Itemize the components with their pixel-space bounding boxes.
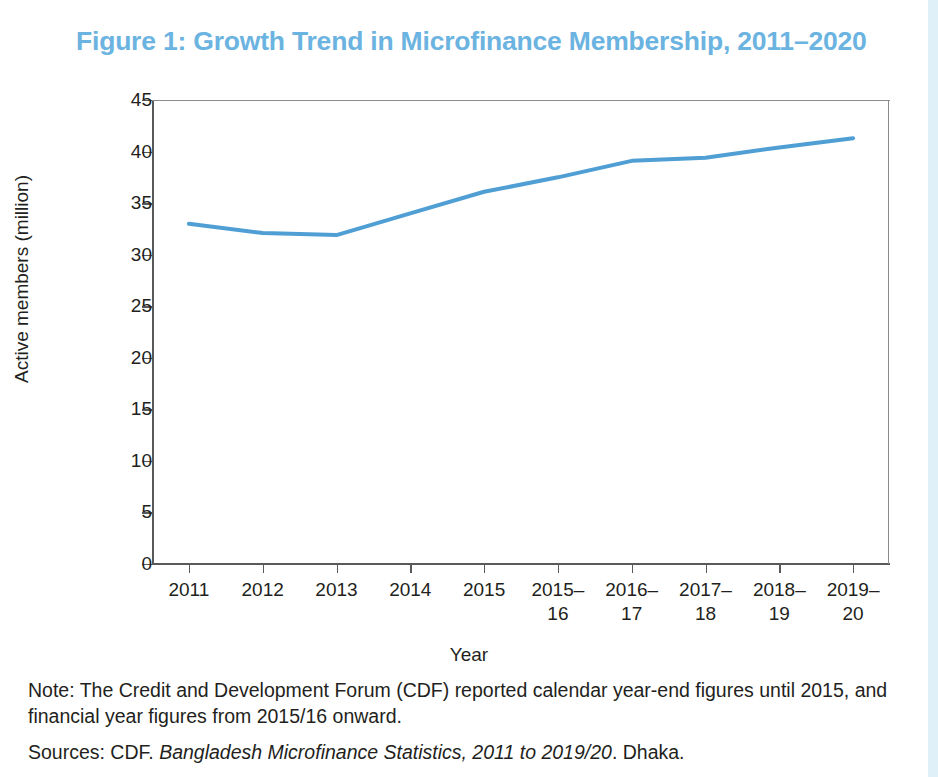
y-axis-label: 0 bbox=[92, 553, 152, 575]
x-axis-tick bbox=[484, 564, 485, 573]
y-axis-label: 5 bbox=[92, 501, 152, 523]
y-axis-label-holder: 25 bbox=[72, 306, 152, 307]
y-axis-label: 25 bbox=[92, 295, 152, 317]
y-axis-label: 40 bbox=[92, 141, 152, 163]
y-axis-label: 20 bbox=[92, 347, 152, 369]
x-axis-tick bbox=[189, 564, 190, 573]
y-axis-label-holder: 5 bbox=[72, 512, 152, 513]
y-axis-label-holder: 15 bbox=[72, 409, 152, 410]
y-axis-label-holder: 0 bbox=[72, 564, 152, 565]
sources-suffix: . Dhaka. bbox=[612, 741, 685, 763]
y-axis-label-holder: 20 bbox=[72, 358, 152, 359]
y-axis-label: 10 bbox=[92, 450, 152, 472]
figure-notes: Note: The Credit and Development Forum (… bbox=[28, 678, 918, 766]
figure-page: Figure 1: Growth Trend in Microfinance M… bbox=[0, 0, 938, 777]
y-axis-title: Active members (million) bbox=[11, 129, 33, 429]
x-axis-tick bbox=[706, 564, 707, 573]
line-chart: 051015202530354045 201120122013201420152… bbox=[0, 78, 938, 668]
x-axis-tick bbox=[337, 564, 338, 573]
y-axis-label: 30 bbox=[92, 244, 152, 266]
y-axis-label-holder: 30 bbox=[72, 255, 152, 256]
x-axis-tick bbox=[779, 564, 780, 573]
y-axis-label: 15 bbox=[92, 398, 152, 420]
x-axis-tick bbox=[853, 564, 854, 573]
x-axis-title: Year bbox=[0, 644, 938, 666]
y-axis-label-holder: 10 bbox=[72, 461, 152, 462]
sources-prefix: Sources: CDF. bbox=[28, 741, 159, 763]
note-text: Note: The Credit and Development Forum (… bbox=[28, 678, 918, 729]
data-series-line bbox=[152, 100, 890, 564]
x-axis-tick bbox=[263, 564, 264, 573]
y-axis-label: 35 bbox=[92, 192, 152, 214]
sources-text: Sources: CDF. Bangladesh Microfinance St… bbox=[28, 740, 918, 766]
y-axis-label-holder: 40 bbox=[72, 152, 152, 153]
y-axis-label-holder: 45 bbox=[72, 100, 152, 101]
figure-title: Figure 1: Growth Trend in Microfinance M… bbox=[76, 26, 916, 58]
y-axis-label: 45 bbox=[92, 89, 152, 111]
x-axis-label: 2019–20 bbox=[805, 578, 901, 627]
sources-title: Bangladesh Microfinance Statistics, 2011… bbox=[159, 741, 612, 763]
x-axis-tick bbox=[632, 564, 633, 573]
x-axis-tick bbox=[558, 564, 559, 573]
x-axis-tick bbox=[410, 564, 411, 573]
y-axis-label-holder: 35 bbox=[72, 203, 152, 204]
